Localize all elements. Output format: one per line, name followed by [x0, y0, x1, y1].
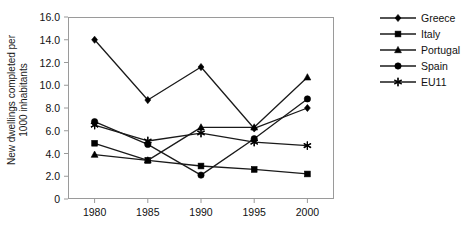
legend-swatch-square-icon [378, 26, 418, 42]
legend-item-spain[interactable]: Spain [378, 58, 461, 74]
legend-item-italy[interactable]: Italy [378, 26, 461, 42]
x-tick-label: 1995 [232, 207, 276, 217]
y-tick-label: 0 [28, 194, 60, 204]
y-axis-title: New dwellings completed per 1000 inhabit… [6, 25, 30, 175]
x-tick-label: 1980 [73, 207, 117, 217]
legend-item-greece[interactable]: Greece [378, 10, 461, 26]
plot-area [68, 17, 334, 199]
legend-item-eu11[interactable]: EU11 [378, 74, 461, 90]
y-tick-label: 16.0 [28, 12, 60, 22]
x-tick-label: 1990 [179, 207, 223, 217]
x-tick-label: 2000 [285, 207, 329, 217]
y-tick-label: 4.0 [28, 149, 60, 159]
y-axis-title-container: New dwellings completed per 1000 inhabit… [0, 0, 34, 200]
legend-label-spain: Spain [421, 60, 448, 72]
y-tick-label: 2.0 [28, 171, 60, 181]
legend-item-portugal[interactable]: Portugal [378, 42, 461, 58]
chart-page: New dwellings completed per 1000 inhabit… [0, 0, 461, 234]
legend-label-portugal: Portugal [421, 44, 460, 56]
y-tick-label: 14.0 [28, 35, 60, 45]
legend-swatch-diamond-icon [378, 10, 418, 26]
y-tick-label: 8.0 [28, 103, 60, 113]
y-tick-label: 6.0 [28, 126, 60, 136]
legend-swatch-asterisk-icon [378, 74, 418, 90]
legend-label-italy: Italy [421, 28, 440, 40]
legend: Greece Italy Portugal Spain EU11 [378, 10, 461, 92]
legend-swatch-triangle-icon [378, 42, 418, 58]
legend-swatch-circle-icon [378, 58, 418, 74]
legend-label-greece: Greece [421, 12, 455, 24]
x-tick-label: 1985 [126, 207, 170, 217]
y-tick-label: 12.0 [28, 58, 60, 68]
legend-label-eu11: EU11 [421, 76, 447, 88]
y-tick-label: 10.0 [28, 80, 60, 90]
